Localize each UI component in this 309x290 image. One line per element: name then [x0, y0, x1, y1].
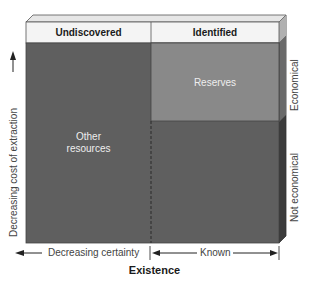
box-top-face: [26, 15, 286, 22]
column-identified: Identified: [151, 27, 279, 38]
left-axis-label: Decreasing cost of extraction: [8, 108, 19, 237]
existence-title: Existence: [0, 264, 309, 276]
reserves-label: Reserves: [151, 77, 279, 89]
box-side-economical: [279, 36, 286, 122]
other-resources-label-line2: resources: [26, 143, 151, 155]
economical-label: Economical: [289, 59, 300, 111]
column-undiscovered: Undiscovered: [26, 27, 151, 38]
known-label: Known: [200, 247, 231, 258]
other-resources-label-line1: Other: [26, 131, 151, 143]
decreasing-certainty-label: Decreasing certainty: [48, 247, 139, 258]
not-economical-label: Not economical: [289, 153, 300, 222]
